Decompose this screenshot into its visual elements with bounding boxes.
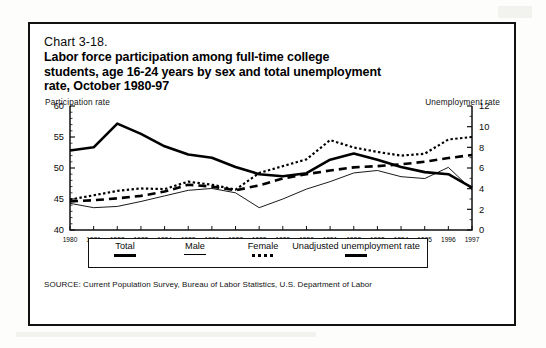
x-axis-tick-label: 1997 [465,236,480,243]
legend-swatch-unemployment [345,254,367,257]
left-axis-tick-label: 45 [54,194,64,204]
chart-figure-frame: Chart 3-18. Labor force participation am… [28,22,516,326]
right-axis-tick-label: 8 [479,143,484,153]
chart-number-label: Chart 3-18. [44,35,108,49]
x-axis-tick-label: 1980 [63,236,78,243]
axes-layer [70,106,472,230]
axis-frame [70,106,472,230]
series-line-male [70,167,472,207]
tick-labels-layer: 4045505560024681012198019811982198319841… [54,101,490,243]
right-axis-tick-label: 0 [479,225,484,235]
title-line-1: Labor force participation among full-tim… [44,50,484,65]
legend-label-unemployment: Unadjusted unemployment rate [285,241,427,251]
series-line-unadjusted-unemployment-rate [70,124,472,188]
right-axis-tick-label: 4 [479,184,484,194]
source-note: SOURCE: Current Population Survey, Burea… [44,280,372,289]
legend-label-male: Male [167,241,223,251]
title-line-2: students, age 16-24 years by sex and tot… [44,65,484,80]
right-axis-tick-label: 6 [479,163,484,173]
left-axis-caption: Participation rate [45,98,110,107]
right-axis-tick-label: 10 [479,122,489,132]
scan-artifact [498,6,532,18]
legend-item-male: Male [167,241,223,255]
x-axis-tick-label: 1996 [441,236,456,243]
legend-swatch-male [184,254,206,255]
scan-artifact [16,332,316,337]
legend-item-total: Total [97,241,153,257]
page-title: Labor force participation among full-tim… [44,50,484,94]
legend-swatch-female [252,254,274,257]
legend-label-total: Total [97,241,153,251]
title-line-3: rate, October 1980-97 [44,79,484,94]
right-axis-tick-label: 2 [479,205,484,215]
series-layer [70,124,472,208]
legend-item-female: Female [235,241,291,257]
left-axis-tick-label: 40 [54,225,64,235]
left-axis-tick-label: 55 [54,132,64,142]
left-axis-tick-label: 50 [54,163,64,173]
series-line-total [70,155,472,202]
figure-title-block: Chart 3-18. Labor force participation am… [44,32,484,94]
legend-item-unemployment: Unadjusted unemployment rate [285,241,427,257]
scanned-page: Chart 3-18. Labor force participation am… [0,0,546,348]
right-axis-caption: Unemployment rate [425,98,500,107]
legend-swatch-total [114,254,136,257]
legend-label-female: Female [235,241,291,251]
chart-legend: Total Male Female Unadjusted unemploymen… [88,238,428,268]
series-line-female [70,137,472,200]
